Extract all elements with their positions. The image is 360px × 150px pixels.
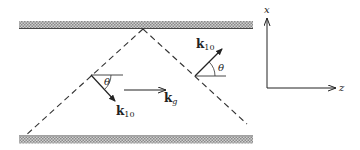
axis-label-z: z (339, 83, 344, 93)
angle-theta-left: θ (104, 77, 110, 87)
angle-theta-right: θ (218, 63, 224, 73)
waveguide-diagram (0, 0, 360, 150)
k-guide-label: kg (164, 92, 177, 106)
k10-down-label: k10 (116, 105, 135, 119)
axis-label-x: x (264, 5, 270, 15)
top-plate (19, 21, 253, 29)
k10-down-subscript: 10 (124, 110, 134, 119)
k-guide-subscript: g (172, 97, 177, 106)
bottom-plate (19, 136, 253, 144)
coordinate-axes (267, 18, 336, 88)
k10-up-label: k10 (196, 38, 215, 52)
k10-up-subscript: 10 (204, 43, 214, 52)
